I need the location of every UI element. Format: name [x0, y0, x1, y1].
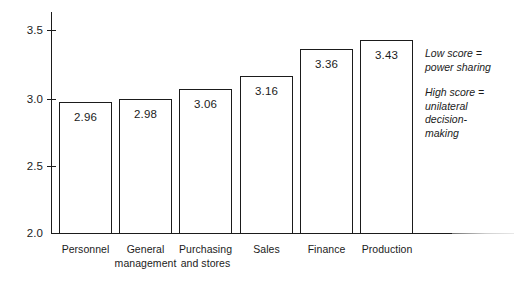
annotation-low-score: Low score = power sharing: [425, 47, 513, 74]
y-tick-label-3: 3.5: [3, 25, 43, 37]
category-label-line: Finance: [308, 243, 346, 255]
bar-purchasing-and-stores: 3.06: [179, 89, 232, 234]
y-tick-mark-2: [47, 99, 56, 100]
category-label-line: management: [115, 257, 177, 269]
bar-finance: 3.36: [300, 49, 353, 234]
category-label-line: and stores: [181, 257, 231, 269]
category-label-line: General: [127, 243, 165, 255]
category-label-line: Purchasing: [179, 243, 232, 255]
category-label-finance: Finance: [295, 243, 358, 257]
y-tick-mark-1: [47, 166, 56, 167]
category-label-line: Sales: [253, 243, 280, 255]
bar-general-management: 2.98: [119, 99, 172, 234]
bar-production: 3.43: [360, 40, 413, 234]
category-label-line: Production: [362, 243, 413, 255]
bar-value-label: 3.43: [361, 49, 412, 61]
y-tick-label-0: 2.0: [3, 228, 43, 240]
category-label-general-management: General management: [112, 243, 179, 270]
category-label-personnel: Personnel: [54, 243, 117, 257]
annotation-high-score: High score = unilateral decision- making: [425, 86, 513, 140]
y-tick-mark-3: [47, 30, 56, 31]
category-label-sales: Sales: [235, 243, 298, 257]
bar-value-label: 3.06: [180, 98, 231, 110]
bar-value-label: 3.16: [241, 85, 292, 97]
category-label-purchasing-and-stores: Purchasing and stores: [174, 243, 237, 270]
annotation-line: power sharing: [425, 61, 513, 75]
bar-sales: 3.16: [240, 76, 293, 234]
bar-value-label: 2.96: [60, 111, 111, 123]
x-axis-line-extension: [452, 233, 514, 234]
y-tick-label-1: 2.5: [3, 161, 43, 173]
bar-value-label: 3.36: [301, 58, 352, 70]
annotation-line: unilateral: [425, 100, 513, 114]
annotation-line: decision-: [425, 113, 513, 127]
y-tick-label-2: 3.0: [3, 94, 43, 106]
category-label-production: Production: [354, 243, 420, 257]
annotation-line: making: [425, 127, 513, 141]
y-axis-line: [51, 12, 52, 234]
category-label-line: Personnel: [62, 243, 110, 255]
annotation-line: High score =: [425, 86, 513, 100]
bar-chart: 3.5 3.0 2.5 2.0 2.96 2.98 3.06 3.16 3.36…: [0, 0, 515, 284]
bar-value-label: 2.98: [120, 108, 171, 120]
plot-area: 3.5 3.0 2.5 2.0 2.96 2.98 3.06 3.16 3.36…: [0, 0, 515, 284]
annotation-line: Low score =: [425, 47, 513, 61]
bar-personnel: 2.96: [59, 102, 112, 234]
chart-annotations: Low score = power sharing High score = u…: [425, 47, 513, 140]
